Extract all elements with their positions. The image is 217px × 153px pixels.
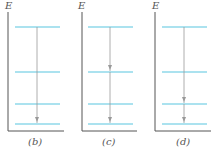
axis-label-d: E (152, 0, 159, 11)
arrow-head-icon (108, 117, 112, 122)
panel-label-c: (c) (102, 136, 115, 147)
panel-label-d: (d) (176, 136, 190, 147)
axis-label-c: E (78, 0, 85, 11)
arrow-head-icon (182, 117, 186, 122)
panel-label-b: (b) (28, 136, 42, 147)
arrow-head-icon (108, 65, 112, 70)
energy-level-diagram (0, 0, 217, 153)
arrow-head-icon (35, 117, 39, 122)
axis-label-b: E (5, 0, 12, 11)
arrow-head-icon (182, 97, 186, 102)
